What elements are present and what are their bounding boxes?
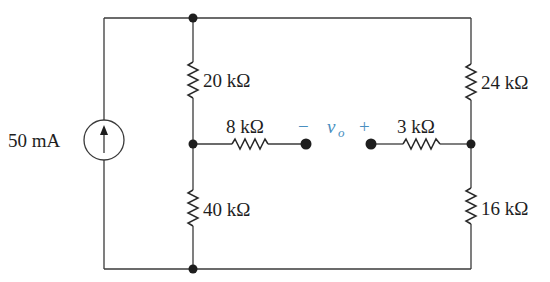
resistor-40k xyxy=(188,190,198,226)
label-16k: 16 kΩ xyxy=(481,198,528,219)
vo-subscript: o xyxy=(338,125,345,140)
label-20k: 20 kΩ xyxy=(203,70,250,91)
current-source xyxy=(84,120,124,160)
node-top xyxy=(189,14,198,23)
label-24k: 24 kΩ xyxy=(481,72,528,93)
terminal-minus xyxy=(301,139,312,150)
resistor-8k xyxy=(232,139,268,149)
label-8k: 8 kΩ xyxy=(226,116,264,137)
resistor-24k xyxy=(466,64,476,100)
source-label: 50 mA xyxy=(8,130,61,151)
resistor-16k xyxy=(466,188,476,224)
resistor-20k xyxy=(188,62,198,98)
node-bottom xyxy=(189,265,198,274)
resistor-3k xyxy=(403,139,440,149)
label-3k: 3 kΩ xyxy=(397,116,435,137)
node-mid xyxy=(189,140,198,149)
label-40k: 40 kΩ xyxy=(203,199,250,220)
arrow-head-icon xyxy=(100,125,108,135)
vo-symbol: v xyxy=(327,116,336,137)
vo-minus-sign: − xyxy=(298,116,309,137)
node-right xyxy=(467,140,476,149)
vo-plus-sign: + xyxy=(359,116,370,137)
circuit-diagram: 50 mA 20 kΩ 40 kΩ 8 kΩ 3 kΩ 24 kΩ 16 kΩ … xyxy=(0,0,550,282)
terminal-plus xyxy=(366,139,377,150)
